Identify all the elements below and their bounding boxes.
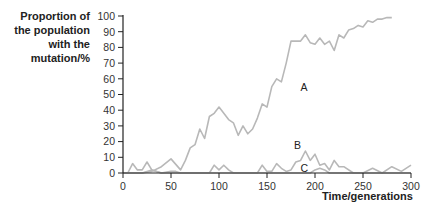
x-tick-label: 100 — [210, 180, 228, 192]
curve-label-c: C — [301, 162, 309, 174]
y-tick-label: 0 — [109, 167, 115, 179]
y-tick-label: 20 — [103, 135, 115, 147]
x-tick-label: 150 — [258, 180, 276, 192]
y-tick-label: 30 — [103, 120, 115, 132]
x-tick-label: 0 — [120, 180, 126, 192]
series-layer — [123, 18, 411, 173]
y-tick-label: 90 — [103, 26, 115, 38]
y-tick-label: 100 — [97, 10, 115, 22]
x-tick-label: 50 — [165, 180, 177, 192]
y-tick-label: 60 — [103, 73, 115, 85]
y-tick-label: 40 — [103, 104, 115, 116]
y-tick-label: 50 — [103, 88, 115, 100]
x-axis-label: Time/generations — [300, 190, 435, 202]
series-a-line — [123, 18, 392, 173]
curve-label-b: B — [294, 139, 301, 151]
y-tick-label: 70 — [103, 57, 115, 69]
curve-label-a: A — [301, 81, 308, 93]
y-tick-label: 80 — [103, 41, 115, 53]
y-tick-label: 10 — [103, 151, 115, 163]
line-chart: 0102030405060708090100050100150200250300… — [0, 0, 435, 215]
